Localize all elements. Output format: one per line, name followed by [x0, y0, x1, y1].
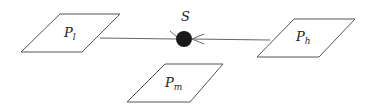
node-pl-base: P — [63, 25, 73, 40]
arrow-tick-left-icon — [170, 31, 177, 37]
node-pm-sub: m — [174, 82, 183, 92]
node-ph-sub: h — [305, 36, 311, 46]
node-ph-base: P — [295, 29, 305, 44]
diagram-canvas: Pl Ph Pm S — [0, 0, 374, 111]
edge-pl-to-s — [100, 38, 176, 39]
edge-ph-to-s — [192, 39, 270, 40]
node-pm: Pm — [127, 64, 223, 102]
center-node-label: S — [181, 9, 190, 24]
node-pl-sub: l — [73, 32, 76, 42]
center-node-dot — [176, 31, 192, 47]
node-pm-base: P — [164, 75, 174, 90]
node-ph: Ph — [257, 19, 355, 57]
node-pl: Pl — [21, 14, 120, 52]
